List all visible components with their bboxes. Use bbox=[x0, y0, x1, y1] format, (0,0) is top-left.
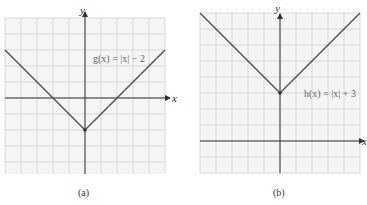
panel-caption: (b) bbox=[273, 187, 285, 199]
x-axis-label: x bbox=[361, 135, 367, 147]
function-label: h(x) = |x| + 3 bbox=[304, 88, 356, 100]
panel-a: x y g(x) = |x| − 2 (a) bbox=[5, 4, 177, 199]
vertex-point bbox=[83, 128, 87, 132]
x-axis-label: x bbox=[171, 92, 177, 104]
y-axis-label: y bbox=[79, 4, 85, 16]
panel-caption: (a) bbox=[78, 187, 89, 199]
function-label: g(x) = |x| − 2 bbox=[93, 53, 145, 65]
y-axis-label: y bbox=[274, 2, 280, 14]
vertex-point bbox=[278, 91, 282, 95]
figure: x y g(x) = |x| − 2 (a) x y h(x) = |x| + … bbox=[0, 0, 367, 205]
panel-b: x y h(x) = |x| + 3 (b) bbox=[200, 2, 367, 199]
